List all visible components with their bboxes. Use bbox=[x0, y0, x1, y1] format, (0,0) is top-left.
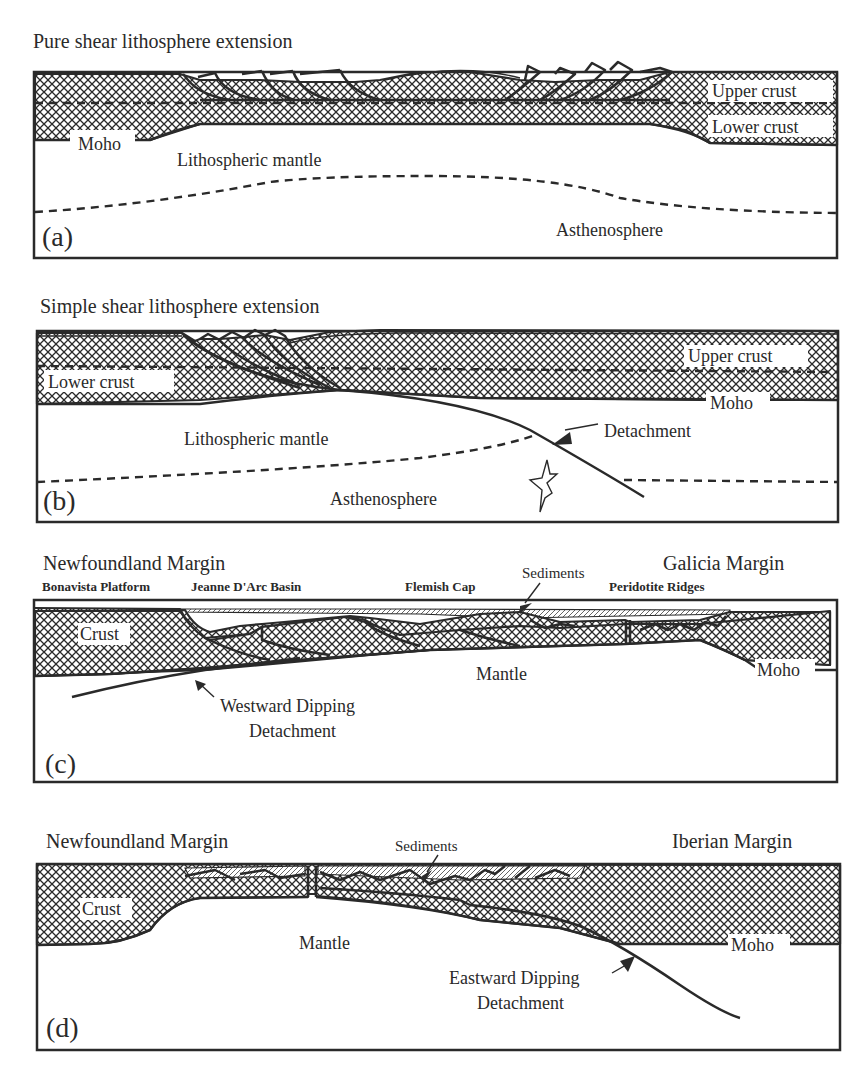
panel-d: Newfoundland Margin Iberian Margin Sedim… bbox=[37, 830, 840, 1050]
panel-c-sediments-label: Sediments bbox=[522, 565, 585, 581]
panel-b-title: Simple shear lithosphere extension bbox=[40, 295, 319, 318]
panel-b-detachment-label: Detachment bbox=[604, 421, 691, 441]
panel-d-detachment-arrow-icon bbox=[620, 956, 635, 972]
panel-c-crust-label: Crust bbox=[80, 624, 119, 644]
panel-d-left-margin-title: Newfoundland Margin bbox=[46, 830, 228, 853]
panel-a-lithospheric-mantle-label: Lithospheric mantle bbox=[177, 150, 321, 170]
panel-a: Pure shear lithosphere extension Moho Li… bbox=[33, 30, 837, 258]
panel-c-feature-bonavista-platform: Bonavista Platform bbox=[42, 579, 150, 594]
panel-b-detachment-arrow-line bbox=[565, 424, 598, 430]
panel-c-left-margin-title: Newfoundland Margin bbox=[43, 552, 225, 575]
panel-c-detachment-label-line2: Detachment bbox=[249, 721, 336, 741]
panel-a-asthenosphere-label: Asthenosphere bbox=[556, 220, 663, 240]
panel-c-moho-label: Moho bbox=[757, 660, 800, 680]
panel-b-asthenosphere-label: Asthenosphere bbox=[330, 489, 437, 509]
panel-c-feature-peridotite-ridges: Peridotite Ridges bbox=[609, 579, 705, 594]
panel-c-detachment-arrow-icon bbox=[195, 680, 206, 691]
panel-b-lower-crust-label: Lower crust bbox=[48, 372, 134, 392]
panel-d-mantle-label: Mantle bbox=[299, 933, 350, 953]
panel-b-moho-label: Moho bbox=[710, 393, 753, 413]
panel-d-right-margin-title: Iberian Margin bbox=[672, 830, 792, 853]
panel-c-right-margin-title: Galicia Margin bbox=[663, 552, 784, 575]
panel-b-lab-right bbox=[624, 480, 838, 482]
panel-a-letter: (a) bbox=[42, 221, 73, 252]
panel-c-feature-flemish-cap: Flemish Cap bbox=[405, 579, 475, 594]
panel-c: Newfoundland Margin Galicia Margin Bonav… bbox=[34, 552, 837, 782]
panel-c-sediment-layer bbox=[180, 609, 730, 618]
panel-c-mantle-label: Mantle bbox=[476, 664, 527, 684]
panel-d-sediments-label: Sediments bbox=[395, 838, 458, 854]
panel-b-upper-crust-label: Upper crust bbox=[688, 346, 772, 366]
panel-d-detachment-label-line2: Detachment bbox=[477, 993, 564, 1013]
panel-b: Simple shear lithosphere extension Lower… bbox=[37, 295, 838, 522]
panel-a-lower-crust-label: Lower crust bbox=[712, 117, 798, 137]
panel-a-lab bbox=[35, 176, 837, 213]
lithosphere-extension-figure: Pure shear lithosphere extension Moho Li… bbox=[0, 0, 865, 1072]
panel-d-letter: (d) bbox=[46, 1012, 79, 1043]
panel-d-detachment-label-line1: Eastward Dipping bbox=[449, 968, 579, 988]
panel-b-detachment-arrow-icon bbox=[552, 432, 572, 445]
panel-a-upper-crust-label: Upper crust bbox=[712, 81, 796, 101]
panel-d-crust-label: Crust bbox=[82, 899, 121, 919]
panel-c-feature-jeanne-darc-basin: Jeanne D'Arc Basin bbox=[191, 579, 302, 594]
panel-c-letter: (c) bbox=[45, 748, 76, 779]
panel-a-moho-label: Moho bbox=[78, 134, 121, 154]
panel-a-title: Pure shear lithosphere extension bbox=[33, 30, 292, 53]
panel-c-detachment-label-line1: Westward Dipping bbox=[220, 696, 355, 716]
panel-b-melt-icon bbox=[530, 460, 557, 512]
panel-b-letter: (b) bbox=[43, 485, 76, 516]
panel-d-moho-label: Moho bbox=[731, 935, 774, 955]
panel-b-lithospheric-mantle-label: Lithospheric mantle bbox=[184, 429, 328, 449]
